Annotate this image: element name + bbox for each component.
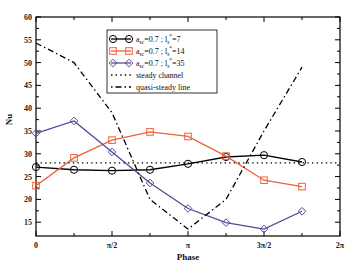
legend: asc=0.7 ; ls*=7asc=0.7 ; ls*=14asc=0.7 ;… (107, 30, 217, 93)
y-tick-label: 20 (24, 195, 32, 204)
legend-label: steady channel (136, 71, 184, 80)
y-tick-label: 15 (24, 218, 32, 227)
y-tick-label: 50 (24, 59, 32, 68)
y-tick-label: 30 (24, 150, 32, 159)
legend-label: asc=0.7 ; ls*=35 (136, 57, 185, 69)
y-tick-label: 40 (24, 104, 32, 113)
series-ls14 (33, 129, 306, 190)
y-tick-label: 45 (24, 81, 32, 90)
line-chart: 152025303540455055600π/2π3π/22πPhaseNuas… (0, 0, 357, 267)
x-tick-label: 2π (336, 241, 345, 250)
legend-label: quasi-steady line (136, 83, 190, 92)
x-tick-label: 3π/2 (257, 241, 272, 250)
y-tick-label: 35 (24, 127, 32, 136)
y-tick-label: 60 (24, 13, 32, 22)
x-tick-label: 0 (34, 241, 38, 250)
legend-label: asc=0.7 ; ls*=14 (136, 45, 185, 57)
x-tick-label: π (186, 241, 191, 250)
x-axis-title: Phase (177, 252, 200, 262)
x-tick-label: π/2 (107, 241, 118, 250)
y-axis-title: Nu (4, 114, 14, 126)
y-tick-label: 55 (24, 36, 32, 45)
y-tick-label: 25 (24, 173, 32, 182)
